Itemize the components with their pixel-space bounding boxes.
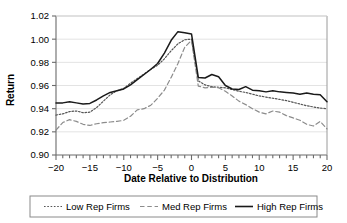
x-tick-label: 10 (254, 162, 265, 173)
y-tick-label: 0.94 (31, 103, 50, 114)
y-tick-label: 0.96 (31, 80, 50, 91)
legend-label-low-rep-firms: Low Rep Firms (66, 201, 130, 212)
x-tick-label: 20 (322, 162, 333, 173)
legend-label-med-rep-firms: Med Rep Firms (162, 201, 227, 212)
y-axis-title: Return (5, 74, 16, 106)
x-tick-label: 15 (288, 162, 299, 173)
y-tick-label: 0.98 (31, 57, 50, 68)
x-axis-ticks (56, 155, 327, 160)
data-series-group (56, 32, 327, 130)
return-line-chart: 0.900.920.940.960.981.001.02 −20−15−10−5… (0, 0, 347, 223)
chart-legend: Low Rep FirmsMed Rep FirmsHigh Rep Firms (30, 196, 323, 217)
y-tick-label: 1.02 (31, 10, 50, 21)
y-axis-ticks (52, 16, 56, 155)
x-tick-label: −20 (48, 162, 64, 173)
chart-figure: 0.900.920.940.960.981.001.02 −20−15−10−5… (0, 0, 347, 223)
x-tick-label: −15 (82, 162, 98, 173)
y-tick-label: 1.00 (31, 34, 50, 45)
x-tick-label: 0 (189, 162, 194, 173)
x-tick-label: −5 (152, 162, 163, 173)
x-axis-tick-labels: −20−15−10−505101520 (48, 162, 332, 173)
x-tick-label: 5 (223, 162, 228, 173)
legend-label-high-rep-firms: High Rep Firms (257, 201, 323, 212)
y-axis-tick-labels: 0.900.920.940.960.981.001.02 (31, 10, 50, 160)
x-tick-label: −10 (116, 162, 132, 173)
y-tick-label: 0.90 (31, 149, 50, 160)
y-tick-label: 0.92 (31, 126, 50, 137)
x-axis-title: Date Relative to Distribution (124, 173, 258, 184)
series-line-low-rep-firms (56, 39, 327, 115)
